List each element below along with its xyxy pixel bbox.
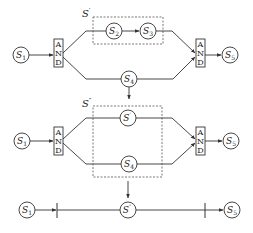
node-s2: S2 bbox=[106, 23, 122, 39]
svg-text:N: N bbox=[197, 49, 204, 58]
workflow-reduction-diagram: S′ S1 A N D S2 S3 S4 bbox=[0, 0, 253, 233]
and-join-gateway: A N D bbox=[196, 127, 205, 155]
stage-2: S″ S1 A N D S′ S4 A N D bbox=[14, 97, 239, 177]
edge-sprime-and bbox=[136, 118, 195, 139]
node-s5: S5 bbox=[222, 47, 238, 63]
node-s1: S1 bbox=[13, 47, 29, 63]
edge-and-s4 bbox=[63, 143, 121, 164]
svg-text:D: D bbox=[197, 58, 203, 67]
node-s5: S5 bbox=[223, 133, 239, 149]
stage-3: S1 S″ S5 bbox=[19, 202, 240, 218]
svg-text:A: A bbox=[197, 128, 204, 137]
svg-text:N: N bbox=[55, 137, 62, 146]
svg-text:N: N bbox=[55, 49, 62, 58]
svg-text:D: D bbox=[197, 146, 203, 155]
and-join-gateway: A N D bbox=[196, 39, 205, 67]
edge-s4-and bbox=[137, 57, 195, 79]
node-s-prime: S′ bbox=[120, 110, 136, 126]
edge-s4-and bbox=[137, 143, 195, 164]
and-split-gateway: A N D bbox=[54, 39, 63, 67]
svg-text:A: A bbox=[197, 40, 204, 49]
node-s5: S5 bbox=[224, 202, 240, 218]
node-s4: S4 bbox=[121, 156, 137, 172]
edge-and-s4 bbox=[63, 57, 121, 79]
node-s1: S1 bbox=[14, 133, 30, 149]
node-s4: S4 bbox=[121, 71, 137, 87]
svg-text:D: D bbox=[55, 146, 61, 155]
group-s-prime-label: S′ bbox=[82, 7, 91, 19]
and-split-gateway: A N D bbox=[54, 127, 63, 155]
edge-and-s2 bbox=[63, 31, 106, 53]
svg-text:D: D bbox=[55, 58, 61, 67]
edge-and-sprime bbox=[63, 118, 120, 139]
node-s3: S3 bbox=[140, 23, 156, 39]
stage-1: S′ S1 A N D S2 S3 S4 bbox=[13, 7, 238, 87]
node-s-double-prime: S″ bbox=[120, 202, 136, 218]
node-s1: S1 bbox=[19, 202, 35, 218]
svg-text:A: A bbox=[55, 40, 62, 49]
svg-text:N: N bbox=[197, 137, 204, 146]
edge-s3-and bbox=[156, 31, 195, 53]
group-s-double-prime-label: S″ bbox=[82, 97, 92, 109]
svg-text:A: A bbox=[55, 128, 62, 137]
